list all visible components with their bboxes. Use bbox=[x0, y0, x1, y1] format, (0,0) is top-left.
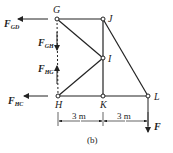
label-g: G bbox=[53, 4, 60, 15]
dimension-left-label: 3 m bbox=[72, 111, 86, 121]
figure-caption: (b) bbox=[87, 135, 98, 145]
force-load-label: F bbox=[153, 121, 161, 132]
label-k: K bbox=[99, 99, 108, 110]
section-cut-line bbox=[57, 19, 58, 96]
force-hg-label: FHG bbox=[37, 63, 54, 75]
member-hi bbox=[58, 58, 103, 96]
force-gd-label: FGD bbox=[3, 18, 20, 30]
label-j: J bbox=[108, 13, 113, 24]
node-h bbox=[56, 94, 60, 98]
label-h: H bbox=[54, 99, 63, 110]
label-l: L bbox=[153, 91, 160, 102]
node-k bbox=[101, 94, 105, 98]
node-j bbox=[101, 17, 105, 21]
force-hc-label: FHC bbox=[7, 95, 24, 107]
dimension-right-label: 3 m bbox=[117, 111, 131, 121]
node-i bbox=[101, 56, 105, 60]
node-l bbox=[146, 94, 150, 98]
node-g bbox=[55, 17, 59, 21]
label-i: I bbox=[107, 53, 112, 64]
member-gi bbox=[57, 19, 103, 58]
truss-diagram: G J I H K L FGD FGH FHG FHC F 3 m 3 m (b… bbox=[0, 0, 173, 153]
force-gh-label: FGH bbox=[37, 37, 54, 49]
